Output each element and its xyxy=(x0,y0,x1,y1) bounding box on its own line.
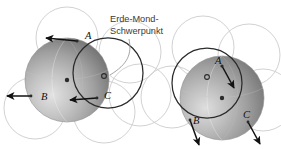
earth-center-dot-right xyxy=(220,96,224,100)
point-b-marker-right xyxy=(189,119,192,122)
point-c-marker-left xyxy=(96,97,99,100)
point-label-b-right: B xyxy=(193,115,200,126)
annotation-line-1: Erde-Mond- xyxy=(110,14,159,24)
point-c-marker-right xyxy=(247,121,250,124)
annotation-line-2: Schwerpunkt xyxy=(110,26,164,36)
earth-center-dot-left xyxy=(65,78,69,82)
point-b-marker-left xyxy=(30,95,33,98)
point-label-b-left: B xyxy=(41,91,48,102)
point-label-c-right: C xyxy=(243,109,251,120)
point-label-c-left: C xyxy=(104,90,112,101)
point-label-a-left: A xyxy=(84,30,92,41)
point-a-marker-left xyxy=(75,39,78,42)
earth-moon-barycenter-diagram: A B C Erde-Mond- Schwerpunkt xyxy=(0,0,281,149)
point-label-a-right: A xyxy=(214,55,222,66)
